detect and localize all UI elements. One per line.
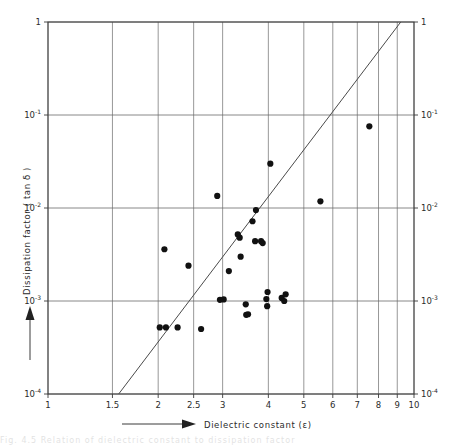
data-point-28 [317,198,323,204]
x-tick-label-3: 3 [220,400,225,410]
data-point-8 [221,296,227,302]
y-tick-label-right--4: 10-4 [421,387,438,399]
data-point-16 [249,218,255,224]
x-axis-arrow-head-icon [182,420,196,429]
horizontal-gridlines-group [48,22,414,394]
data-point-21 [263,296,269,302]
data-point-4 [161,246,167,252]
data-point-0 [157,324,163,330]
x-tick-label-5: 5 [301,400,306,410]
figure-container: 11.522.5345678910 110-110-210-310-4 110-… [0,0,449,448]
y-tick-label-left-0: 1 [36,17,41,27]
data-point-20 [260,240,266,246]
x-tick-label-1.5: 1.5 [106,400,120,410]
x-tick-label-4: 4 [266,400,271,410]
x-tick-label-8: 8 [376,400,381,410]
data-point-24 [267,161,273,167]
x-tick-label-10: 10 [409,400,420,410]
data-point-1 [163,324,169,330]
x-tick-label-2: 2 [155,400,160,410]
y-tick-label-left--1: 10-1 [24,108,41,120]
data-point-26 [281,298,287,304]
y-axis-arrow-head-icon [26,306,35,320]
y-tick-label-right-0: 1 [421,17,426,27]
x-axis-tick-labels-group: 11.522.5345678910 [45,394,419,410]
x-axis-title-group: Dielectric constant (ε) [122,420,312,430]
data-point-15 [245,311,251,317]
y-axis-title: Dissipation factor ( tan δ ) [22,167,32,295]
y-tick-label-right--1: 10-1 [421,108,438,120]
data-point-11 [237,235,243,241]
data-point-3 [198,326,204,332]
y-tick-label-right--3: 10-3 [421,294,438,306]
data-point-17 [253,207,259,213]
figure-caption: Fig. 4.5 Relation of dielectric constant… [0,436,449,448]
x-tick-label-2.5: 2.5 [187,400,201,410]
x-tick-label-9: 9 [395,400,400,410]
data-point-9 [226,268,232,274]
data-point-12 [238,254,244,260]
y-axis-right-tick-labels-group: 110-110-210-310-4 [414,17,438,399]
data-point-18 [252,238,258,244]
x-tick-label-1: 1 [45,400,50,410]
data-point-23 [264,289,270,295]
data-point-6 [214,193,220,199]
y-axis-title-group: Dissipation factor ( tan δ ) [22,167,35,360]
data-point-13 [243,301,249,307]
data-point-2 [175,324,181,330]
data-point-22 [264,303,270,309]
x-tick-label-6: 6 [330,400,335,410]
y-tick-label-right--2: 10-2 [421,201,438,213]
data-point-27 [283,291,289,297]
x-axis-title: Dielectric constant (ε) [204,420,312,430]
y-tick-label-left--4: 10-4 [24,387,41,399]
data-point-5 [185,263,191,269]
data-point-29 [366,123,372,129]
scatter-plot-svg: 11.522.5345678910 110-110-210-310-4 110-… [0,0,449,448]
x-tick-label-7: 7 [355,400,360,410]
